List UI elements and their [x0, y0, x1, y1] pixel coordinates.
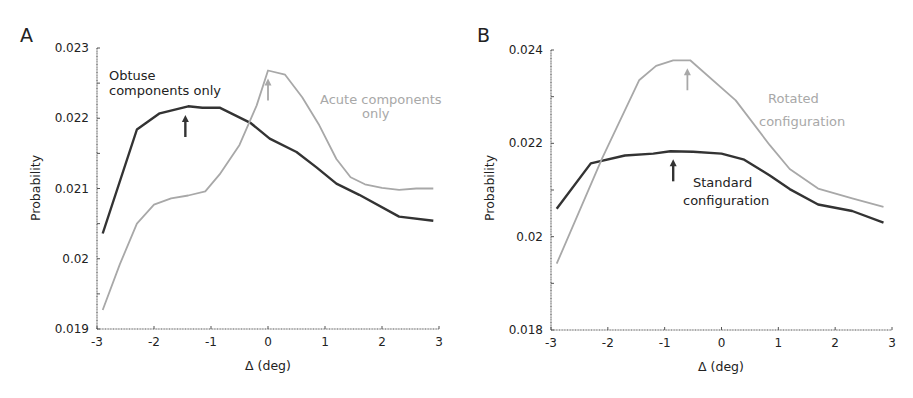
y-tick-label: 0.024: [509, 43, 543, 57]
figure: A 0.0190.020.0210.0220.023 -3-2-10123 Pr…: [0, 0, 913, 398]
peak-arrow-icon: [670, 159, 677, 181]
panel-a-chart: A 0.0190.020.0210.0220.023 -3-2-10123 Pr…: [20, 24, 443, 373]
x-tick-label: 0: [718, 336, 726, 350]
x-tick-label: -3: [545, 336, 557, 350]
panel-b-chart: B 0.0180.020.0220.024 -3-2-10123 Probabi…: [477, 24, 896, 374]
panel-a-annotation-acute-line2: only: [362, 106, 390, 121]
x-tick-label: 2: [831, 336, 839, 350]
panel-b-series: [557, 60, 884, 263]
y-tick-label: 0.02: [62, 252, 89, 266]
x-tick-label: -2: [148, 335, 160, 349]
y-tick-label: 0.019: [55, 322, 89, 336]
panel-a-x-axis: -3-2-10123: [91, 326, 443, 349]
x-tick-label: 3: [435, 335, 443, 349]
x-tick-label: 1: [321, 335, 329, 349]
panel-a-annotation-obtuse-line2: components only: [109, 83, 221, 98]
y-tick-label: 0.022: [509, 136, 543, 150]
panel-b-letter: B: [477, 24, 490, 46]
y-tick-label: 0.02: [516, 230, 543, 244]
panel-a-y-axis: 0.0190.020.0210.0220.023: [55, 41, 100, 336]
x-tick-label: 0: [264, 335, 272, 349]
panel-b-annotation-rotated-line1: Rotated: [768, 91, 819, 106]
y-tick-label: 0.021: [55, 182, 89, 196]
x-tick-label: 2: [378, 335, 386, 349]
panel-a-annotation-obtuse-line1: Obtuse: [109, 68, 156, 83]
peak-arrow-icon: [182, 115, 189, 137]
x-tick-label: -1: [205, 335, 217, 349]
panel-b-x-axis-title: Δ (deg): [698, 359, 744, 374]
series-line-obtuse-components-only: [103, 106, 434, 233]
panel-a-y-axis-title: Probability: [28, 154, 43, 221]
series-line-rotated-configuration: [557, 60, 884, 263]
panel-a-letter: A: [20, 24, 33, 46]
panel-b-annotation-standard-line1: Standard: [693, 175, 752, 190]
peak-arrow-icon: [684, 68, 691, 90]
x-tick-label: -2: [602, 336, 614, 350]
panel-a-annotation-acute-line1: Acute components: [320, 92, 442, 107]
x-tick-label: -3: [91, 335, 103, 349]
panel-b-y-axis-title: Probability: [482, 154, 497, 221]
y-tick-label: 0.018: [509, 323, 543, 337]
y-tick-label: 0.023: [55, 41, 89, 55]
panel-b-x-axis: -3-2-10123: [545, 327, 896, 350]
panel-b-annotation-rotated-line2: configuration: [759, 114, 845, 129]
y-tick-label: 0.022: [55, 111, 89, 125]
peak-arrow-icon: [265, 78, 272, 100]
panel-a-x-axis-title: Δ (deg): [245, 358, 291, 373]
panel-b-annotation-standard-line2: configuration: [683, 193, 769, 208]
x-tick-label: 3: [888, 336, 896, 350]
panel-b-y-axis: 0.0180.020.0220.024: [509, 43, 554, 337]
x-tick-label: -1: [659, 336, 671, 350]
x-tick-label: 1: [775, 336, 783, 350]
